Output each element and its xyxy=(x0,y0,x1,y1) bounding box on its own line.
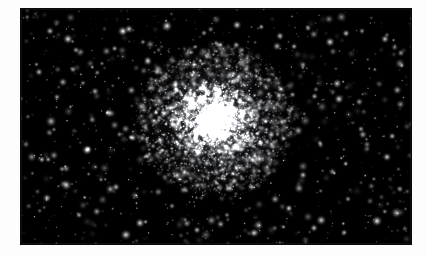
figure-page: Monochrome astronomical photograph of a … xyxy=(0,0,426,256)
star-field-canvas xyxy=(21,9,411,244)
astronomical-plate xyxy=(21,9,411,244)
